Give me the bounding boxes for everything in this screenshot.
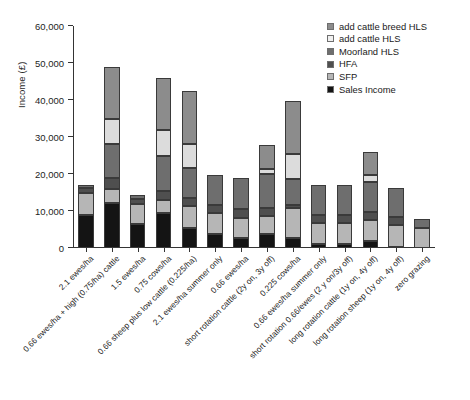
bar-segment: [207, 205, 223, 212]
legend-item[interactable]: Moorland HLS: [327, 45, 467, 58]
bar-2[interactable]: [104, 67, 120, 248]
bar-1[interactable]: [78, 185, 94, 248]
legend-item-label: SFP: [339, 72, 357, 81]
legend-item-label: HFA: [339, 59, 357, 68]
bar-segment: [130, 199, 146, 203]
x-axis-tick: [293, 248, 294, 252]
bar-segment: [337, 244, 353, 248]
bar-segment: [311, 215, 327, 223]
bar-segment: [337, 223, 353, 244]
bar-segment: [414, 219, 430, 228]
y-axis-tick-label: 60,000: [35, 20, 64, 31]
legend-item-label: Sales Income: [339, 85, 396, 94]
bar-10[interactable]: [311, 185, 327, 248]
legend-item-label: Moorland HLS: [339, 47, 399, 56]
bar-segment: [233, 209, 249, 218]
legend-swatch-icon: [327, 73, 334, 80]
bar-segment: [259, 208, 275, 216]
bar-segment: [182, 206, 198, 228]
y-axis-tick-label: 20,000: [35, 168, 64, 179]
bar-5[interactable]: [182, 91, 198, 248]
bar-7[interactable]: [233, 178, 249, 248]
bar-9[interactable]: [285, 101, 301, 248]
bar-segment: [130, 224, 146, 248]
bar-segment: [363, 241, 379, 248]
bar-segment: [233, 218, 249, 238]
bar-segment: [78, 185, 94, 188]
bar-6[interactable]: [207, 175, 223, 248]
bar-segment: [104, 178, 120, 189]
x-axis-tick: [164, 248, 165, 252]
bar-segment: [156, 200, 172, 213]
bar-segment: [182, 198, 198, 206]
legend-item[interactable]: Sales Income: [327, 83, 467, 96]
bar-segment: [130, 195, 146, 199]
bar-segment: [182, 228, 198, 248]
bar-segment: [104, 67, 120, 119]
x-axis-tick: [138, 248, 139, 252]
bar-segment: [285, 179, 301, 205]
bar-segment: [363, 182, 379, 212]
legend-swatch-icon: [327, 48, 334, 55]
bar-12[interactable]: [363, 152, 379, 248]
bar-segment: [104, 203, 120, 248]
x-axis-tick: [396, 248, 397, 252]
bar-segment: [337, 185, 353, 215]
legend-item[interactable]: add cattle HLS: [327, 33, 467, 46]
bar-segment: [414, 228, 430, 248]
bar-segment: [363, 220, 379, 241]
bar-segment: [104, 119, 120, 145]
x-axis-tick: [370, 248, 371, 252]
bar-segment: [78, 193, 94, 215]
bar-segment: [156, 130, 172, 156]
stacked-bar-chart: Income (£) 010,00020,00030,00040,00050,0…: [0, 0, 470, 400]
legend-swatch-icon: [327, 86, 334, 93]
legend-item-label: add cattle breed HLS: [339, 22, 427, 31]
bar-segment: [104, 144, 120, 177]
bar-segment: [311, 244, 327, 248]
bar-segment: [104, 189, 120, 203]
bar-segment: [337, 215, 353, 223]
legend-item[interactable]: HFA: [327, 58, 467, 71]
x-axis-tick: [112, 248, 113, 252]
bar-segment: [156, 191, 172, 200]
bar-segment: [285, 208, 301, 238]
bar-3[interactable]: [130, 195, 146, 248]
x-axis-tick: [215, 248, 216, 252]
bar-segment: [259, 216, 275, 233]
legend-swatch-icon: [327, 35, 334, 42]
legend-swatch-icon: [327, 23, 334, 30]
legend: add cattle breed HLSadd cattle HLSMoorla…: [327, 20, 467, 96]
legend-item-label: add cattle HLS: [339, 34, 401, 43]
bar-segment: [311, 223, 327, 244]
bar-segment: [182, 91, 198, 145]
bar-segment: [285, 101, 301, 154]
y-axis-tick-label: 50,000: [35, 57, 64, 68]
bar-segment: [130, 204, 146, 225]
bar-segment: [182, 168, 198, 198]
bar-8[interactable]: [259, 145, 275, 248]
bar-segment: [182, 144, 198, 168]
bar-13[interactable]: [388, 188, 404, 248]
bar-11[interactable]: [337, 185, 353, 248]
bar-segment: [207, 213, 223, 234]
y-axis-title: Income (£): [16, 62, 27, 108]
bar-segment: [363, 152, 379, 175]
bar-segment: [285, 238, 301, 248]
bar-segment: [311, 185, 327, 215]
y-axis-tick-label: 0: [59, 242, 64, 253]
bar-segment: [78, 215, 94, 248]
x-axis-tick: [86, 248, 87, 252]
legend-item[interactable]: add cattle breed HLS: [327, 20, 467, 33]
bar-segment: [388, 188, 404, 218]
bar-segment: [78, 188, 94, 193]
bar-segment: [207, 175, 223, 205]
bar-segment: [156, 78, 172, 130]
legend-item[interactable]: SFP: [327, 70, 467, 83]
bar-segment: [363, 175, 379, 182]
x-axis-tick: [319, 248, 320, 252]
bar-segment: [285, 205, 301, 209]
y-axis-tick-label: 10,000: [35, 205, 64, 216]
bar-4[interactable]: [156, 78, 172, 248]
bar-14[interactable]: [414, 219, 430, 248]
